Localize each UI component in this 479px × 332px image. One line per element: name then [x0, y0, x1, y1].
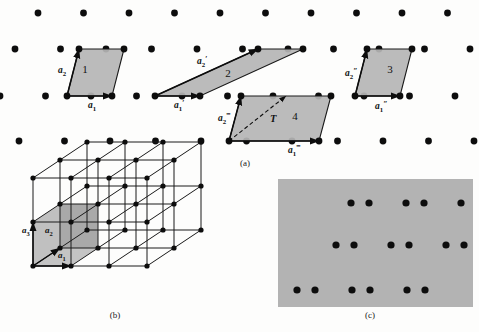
- basis-dot-a: [403, 286, 410, 293]
- cell-corner-dot: [328, 93, 335, 100]
- lattice-dot: [452, 93, 459, 100]
- basis-dot-a: [457, 199, 464, 206]
- basis-dot-b: [421, 286, 428, 293]
- lattice-node: [160, 139, 165, 144]
- figure-crystal-lattices: 1a1a22a1′a2′3a1″a2″4a1‴a2‴T a3a2a1 (a) (…: [0, 0, 479, 332]
- lattice-node: [95, 245, 100, 250]
- lattice-dot: [471, 138, 478, 145]
- basis-dot-b: [311, 286, 318, 293]
- lattice-dot: [35, 10, 42, 17]
- vector-label-a1-prime: a1′: [174, 99, 184, 112]
- unit-cell-face-a1a3: [60, 204, 98, 248]
- lattice-node: [198, 183, 203, 188]
- lattice-node: [160, 227, 165, 232]
- lattice-node: [160, 183, 165, 188]
- lattice-node: [30, 175, 35, 180]
- lattice-dot: [107, 138, 114, 145]
- caption-a: (a): [215, 158, 275, 168]
- cell-corner-dot: [409, 46, 416, 53]
- panel-a-2d-lattice: 1a1a22a1′a2′3a1″a2″4a1‴a2‴T: [0, 10, 477, 157]
- lattice-node: [122, 139, 127, 144]
- panel-c-lattice-with-basis: [278, 179, 473, 307]
- lattice-node: [133, 245, 138, 250]
- lattice-node: [144, 263, 149, 268]
- vector-label-a2-tprime: a2‴: [218, 112, 230, 125]
- lattice-node: [84, 183, 89, 188]
- lattice-node: [198, 227, 203, 232]
- lattice-node: [68, 219, 73, 224]
- basis-dot-a: [387, 241, 394, 248]
- primitive-cell-4: [229, 96, 331, 141]
- vector-label-a2: a2: [58, 65, 67, 77]
- cell-number-3: 3: [387, 63, 393, 75]
- cell-corner-dot: [300, 46, 307, 53]
- panel-b-3d-lattice: a3a2a1: [22, 139, 204, 268]
- lattice-node: [122, 183, 127, 188]
- lattice-dot: [12, 46, 19, 53]
- lattice-dot: [262, 10, 269, 17]
- lattice-dot: [57, 46, 64, 53]
- lattice-dot: [421, 46, 428, 53]
- basis-dot-a: [402, 199, 409, 206]
- lattice-dot: [399, 10, 406, 17]
- lattice-node: [106, 219, 111, 224]
- caption-b: (b): [85, 310, 145, 320]
- lattice-dot: [16, 138, 23, 145]
- lattice-dot: [126, 10, 133, 17]
- lattice-dot: [80, 10, 87, 17]
- basis-dot-b: [460, 241, 467, 248]
- basis-dot-b: [366, 286, 373, 293]
- lattice-dot: [152, 138, 159, 145]
- primitive-cell-3: [355, 49, 412, 96]
- lattice-dot: [239, 46, 246, 53]
- lattice-node: [84, 227, 89, 232]
- lattice-node: [171, 201, 176, 206]
- lattice-dot: [171, 10, 178, 17]
- vector-label-a1-tprime: a1‴: [288, 144, 300, 157]
- lattice-dot: [444, 10, 451, 17]
- lattice-dot: [61, 138, 68, 145]
- lattice-dot: [330, 46, 337, 53]
- lattice-dot: [467, 46, 474, 53]
- lattice-node: [106, 263, 111, 268]
- vector-label-a1: a1: [88, 100, 97, 112]
- lattice-dot: [0, 93, 3, 100]
- vector-label-T-translation: T: [270, 113, 277, 124]
- lattice-node: [57, 157, 62, 162]
- lattice-dot: [406, 93, 413, 100]
- cell-corner-dot: [121, 46, 128, 53]
- primitive-cell-1: [67, 49, 124, 96]
- lattice-dot: [425, 138, 432, 145]
- basis-dot-a: [348, 286, 355, 293]
- vector-label-a1-dprime: a1″: [375, 100, 387, 113]
- lattice-dot: [217, 10, 224, 17]
- lattice-dot: [148, 46, 155, 53]
- basis-dot-b: [405, 241, 412, 248]
- lattice-node: [122, 227, 127, 232]
- lattice-dot: [380, 138, 387, 145]
- lattice-node: [171, 245, 176, 250]
- lattice-node: [133, 157, 138, 162]
- basis-dot-b: [350, 241, 357, 248]
- basis-dot-a: [347, 199, 354, 206]
- cell-number-4: 4: [292, 110, 298, 122]
- lattice-node: [198, 139, 203, 144]
- lattice-node: [144, 219, 149, 224]
- basis-dot-b: [365, 199, 372, 206]
- basis-dot-b: [420, 199, 427, 206]
- cell-number-1: 1: [82, 63, 88, 75]
- basis-dot-a: [442, 241, 449, 248]
- lattice-dot: [133, 93, 140, 100]
- lattice-node: [57, 201, 62, 206]
- lattice-node: [171, 157, 176, 162]
- lattice-node: [95, 157, 100, 162]
- cell-number-2: 2: [225, 67, 231, 79]
- lattice-dot: [334, 138, 341, 145]
- basis-dot-a: [332, 241, 339, 248]
- lattice-node: [95, 201, 100, 206]
- caption-c: (c): [340, 310, 400, 320]
- lattice-dot: [308, 10, 315, 17]
- lattice-dot: [353, 10, 360, 17]
- lattice-node: [144, 175, 149, 180]
- lattice-dot: [194, 46, 201, 53]
